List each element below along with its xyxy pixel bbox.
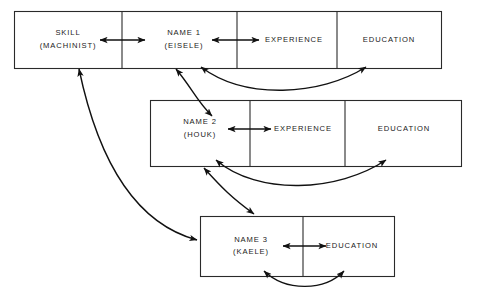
record-1[interactable]: SKILL (MACHINIST) NAME 1 (EISELE) EXPERI… (15, 12, 442, 91)
connector-name3-to-education3-curve[interactable] (264, 271, 344, 286)
connector-name2-to-education2[interactable] (216, 160, 386, 186)
connector-record2-to-record3[interactable] (204, 168, 254, 214)
cell-label-name-1-line1: NAME 1 (167, 28, 201, 37)
cell-label-name-2-line2: (HOUK) (184, 130, 216, 139)
cell-label-name-2-line1: NAME 2 (183, 117, 217, 126)
connector-name1-to-education1[interactable] (201, 67, 366, 90)
cell-label-experience-1: EXPERIENCE (265, 35, 323, 44)
cell-label-experience-2: EXPERIENCE (274, 124, 332, 133)
cell-label-education-3: EDUCATION (326, 241, 378, 250)
cell-label-education-2: EDUCATION (378, 124, 430, 133)
record-2[interactable]: NAME 2 (HOUK) EXPERIENCE EDUCATION (151, 101, 462, 186)
record-3[interactable]: NAME 3 (KAELE) EDUCATION (201, 217, 395, 287)
cell-label-name-3-line1: NAME 3 (234, 235, 268, 244)
cell-label-name-3-line2: (KAELE) (233, 247, 269, 256)
connector-record1-to-record2[interactable] (176, 69, 212, 116)
cell-label-education-1: EDUCATION (363, 35, 415, 44)
cell-label-skill-line1: SKILL (55, 28, 80, 37)
diagram-canvas: SKILL (MACHINIST) NAME 1 (EISELE) EXPERI… (0, 0, 478, 294)
connector-skill-to-name3[interactable] (79, 69, 197, 240)
cell-label-skill-line2: (MACHINIST) (40, 41, 97, 50)
cell-label-name-1-line2: (EISELE) (165, 41, 204, 50)
diagram-svg: SKILL (MACHINIST) NAME 1 (EISELE) EXPERI… (0, 0, 478, 294)
inter-record-connectors (79, 69, 254, 240)
